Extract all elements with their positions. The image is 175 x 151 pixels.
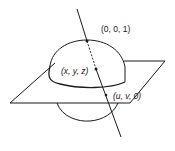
projection-line-inside: [87, 41, 96, 69]
projection-line-top: [77, 9, 87, 41]
plane-point: [105, 94, 108, 97]
north-pole-label: (0, 0, 1): [101, 24, 130, 34]
sphere-point: [95, 68, 98, 71]
sphere-point-label: (x, y, z): [61, 66, 88, 76]
stereographic-projection-diagram: (0, 0, 1) (x, y, z) (u, v, 0): [0, 0, 175, 151]
plane-point-label: (u, v, 0): [113, 91, 141, 101]
north-pole-point: [86, 40, 89, 43]
lower-hemisphere-arc: [57, 103, 118, 121]
